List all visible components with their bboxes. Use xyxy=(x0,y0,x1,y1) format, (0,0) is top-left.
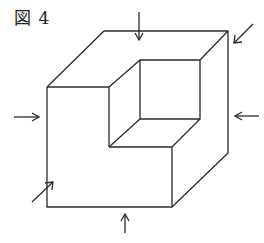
arrow-top xyxy=(135,12,143,40)
solid-edges xyxy=(47,31,228,207)
arrow-right xyxy=(235,112,259,120)
notched-cube-diagram xyxy=(0,0,264,243)
arrow-front-left xyxy=(32,182,53,202)
arrow-bottom xyxy=(121,214,129,233)
arrow-back-right xyxy=(234,24,253,43)
arrow-left xyxy=(14,113,39,121)
